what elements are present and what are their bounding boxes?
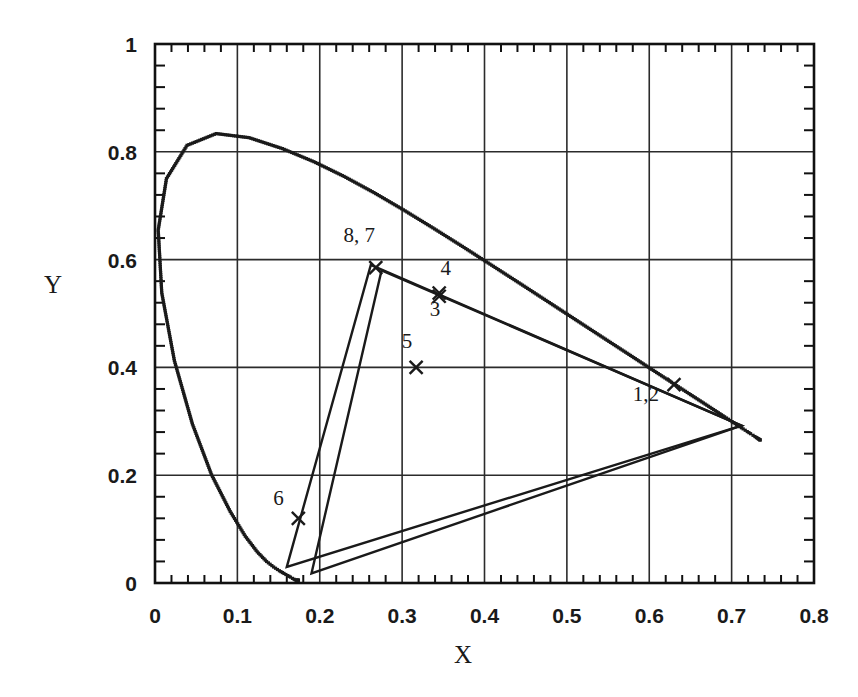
data-series-layer (157, 132, 762, 582)
y-tick-label: 0.6 (108, 249, 137, 272)
data-point-marker (667, 378, 680, 391)
y-tick-label: 0.2 (108, 464, 137, 487)
x-tick-label: 0.6 (635, 604, 664, 627)
chart-canvas: 8, 74351,26 00.10.20.30.40.50.60.70.8 00… (0, 0, 858, 697)
y-tick-label: 1 (125, 33, 137, 56)
y-tick-label: 0 (125, 572, 137, 595)
y-tick-label: 0.4 (108, 356, 138, 379)
x-tick-label: 0.1 (223, 604, 253, 627)
point-label-5: 5 (402, 329, 413, 353)
x-tick-label: 0.5 (552, 604, 582, 627)
point-label-87: 8, 7 (344, 223, 376, 247)
point-label-12: 1,2 (633, 382, 659, 406)
chromaticity-diagram-figure: 8, 74351,26 00.10.20.30.40.50.60.70.8 00… (0, 0, 858, 697)
x-axis-title: X (454, 641, 472, 668)
x-tick-label: 0.8 (799, 604, 829, 627)
point-label-3: 3 (430, 297, 441, 321)
y-axis-title: Y (44, 271, 62, 298)
x-axis-tick-labels: 00.10.20.30.40.50.60.70.8 (149, 604, 829, 627)
gamut-triangle-inner (312, 270, 742, 573)
point-label-6: 6 (273, 486, 284, 510)
x-tick-label: 0.7 (717, 604, 746, 627)
gamut-triangle-outer (287, 265, 742, 567)
x-tick-label: 0.3 (388, 604, 417, 627)
x-tick-label: 0.4 (470, 604, 500, 627)
y-axis-tick-labels: 00.20.40.60.81 (108, 33, 138, 595)
x-tick-label: 0 (149, 604, 161, 627)
x-tick-label: 0.2 (305, 604, 334, 627)
y-tick-label: 0.8 (108, 141, 138, 164)
point-label-4: 4 (441, 256, 452, 280)
